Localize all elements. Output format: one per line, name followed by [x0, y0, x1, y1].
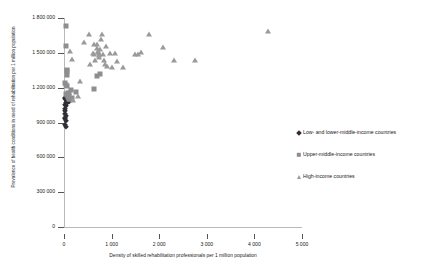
x-tick-mark — [159, 234, 160, 239]
data-point — [114, 58, 120, 63]
y-tick-mark — [58, 53, 64, 54]
y-tick-label: 600 000 — [37, 153, 55, 160]
y-tick-label: 1 200 000 — [32, 84, 55, 91]
data-point — [69, 56, 75, 61]
y-tick-mark — [58, 88, 64, 89]
y-tick-label: 1 500 000 — [32, 49, 55, 56]
data-point — [91, 41, 97, 46]
legend-item[interactable]: High-income countries — [294, 172, 426, 194]
x-tick-mark — [207, 234, 208, 239]
x-tick-label: 1 000 — [92, 241, 132, 248]
data-point — [91, 86, 96, 91]
x-tick-mark — [302, 234, 303, 239]
data-point — [192, 57, 198, 62]
data-point — [109, 64, 115, 69]
data-point — [99, 32, 105, 37]
legend-item-label: Upper-middle-income countries — [303, 150, 375, 158]
legend-item[interactable]: Low- and lower-middle-income countries — [294, 128, 426, 150]
y-tick-mark — [58, 192, 64, 193]
y-axis-label-container: Prevalence of health conditions in need … — [0, 0, 16, 220]
data-point — [70, 97, 76, 102]
y-axis-label: Prevalence of health conditions in need … — [11, 9, 17, 205]
x-tick-label: 4 000 — [234, 241, 274, 248]
y-tick-mark — [58, 227, 64, 228]
x-tick-label: 5 000 — [282, 241, 322, 248]
y-tick-label: 900 000 — [37, 119, 55, 126]
y-tick-mark — [58, 18, 64, 19]
data-point — [77, 78, 83, 83]
data-point — [75, 93, 81, 98]
data-point — [87, 62, 93, 67]
legend-marker-icon — [294, 173, 303, 181]
legend-item-label: Low- and lower-middle-income countries — [303, 128, 396, 136]
chart-legend: Low- and lower-middle-income countriesUp… — [294, 128, 426, 194]
data-point — [160, 45, 166, 50]
scatter-chart: Prevalence of health conditions in need … — [0, 0, 426, 272]
y-tick-label: 1 800 000 — [32, 14, 55, 21]
data-point — [112, 50, 118, 55]
x-tick-label: 2 000 — [139, 241, 179, 248]
data-point — [98, 36, 104, 41]
data-point — [67, 48, 73, 53]
y-tick-label: 0 — [52, 223, 55, 230]
data-point — [81, 40, 87, 45]
plot-area: 0300 000600 000900 0001 200 0001 500 000… — [64, 18, 302, 227]
data-point — [86, 32, 92, 37]
y-tick-mark — [58, 157, 64, 158]
x-axis-label: Density of skilled rehabilitation profes… — [64, 252, 302, 259]
data-point — [146, 32, 152, 37]
data-point — [265, 28, 271, 33]
data-point — [98, 71, 103, 76]
x-tick-mark — [112, 234, 113, 239]
data-point — [138, 49, 144, 54]
x-tick-mark — [64, 234, 65, 239]
legend-item[interactable]: Upper-middle-income countries — [294, 150, 426, 172]
x-tick-label: 0 — [44, 241, 84, 248]
data-point — [171, 57, 177, 62]
data-point — [120, 64, 126, 69]
x-tick-mark — [254, 234, 255, 239]
x-tick-label: 3 000 — [187, 241, 227, 248]
data-point — [100, 51, 106, 56]
data-point — [103, 43, 109, 48]
legend-marker-icon — [294, 129, 303, 137]
data-point — [64, 24, 69, 29]
x-axis-line — [64, 227, 302, 228]
y-tick-label: 300 000 — [37, 188, 55, 195]
legend-marker-icon — [294, 151, 303, 159]
data-point — [63, 81, 68, 86]
legend-item-label: High-income countries — [303, 172, 355, 180]
data-point — [64, 72, 69, 77]
